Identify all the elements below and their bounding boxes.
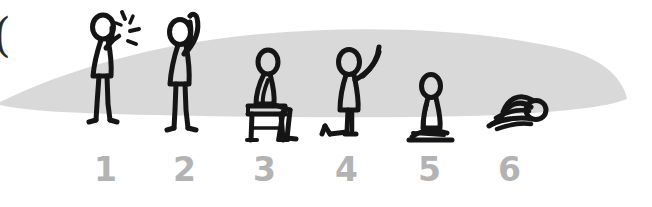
step-label-4: 4: [335, 153, 358, 186]
step-label-6: 6: [498, 153, 521, 186]
step-label-2: 2: [173, 153, 196, 186]
step-label-5: 5: [418, 153, 441, 186]
step-label-3: 3: [253, 153, 276, 186]
step-label-1: 1: [94, 153, 117, 186]
illustration-canvas: ): [0, 0, 652, 207]
figure-1-motion-lines: [116, 12, 139, 44]
